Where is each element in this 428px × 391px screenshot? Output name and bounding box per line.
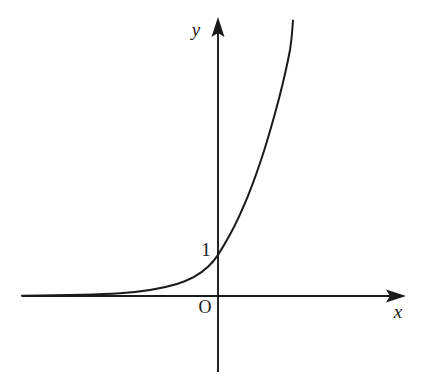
- y-axis-group: [212, 17, 225, 372]
- y-axis-label: y: [190, 19, 201, 40]
- exponential-curve: [22, 21, 293, 296]
- y-intercept-tick-label: 1: [201, 239, 211, 260]
- exponential-function-figure: y x 1 O: [0, 0, 428, 391]
- x-axis-group: [22, 290, 406, 303]
- origin-label: O: [199, 297, 212, 317]
- x-axis-label: x: [393, 301, 403, 322]
- graph-canvas: y x 1 O: [0, 0, 428, 391]
